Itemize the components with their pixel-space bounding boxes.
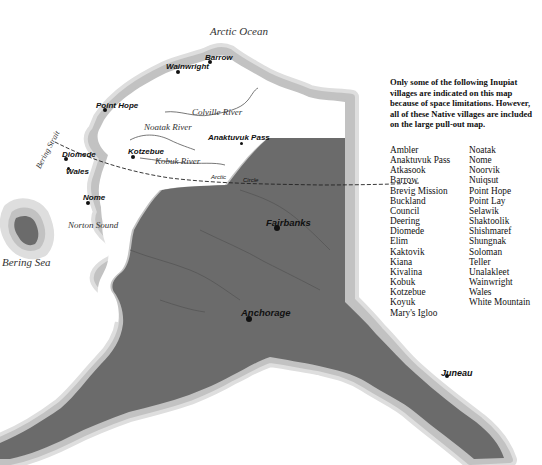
town-fairbanks: Fairbanks (266, 217, 311, 228)
arctic-circle-label-1: Arctic (211, 174, 226, 180)
village-item: Kiana (390, 257, 450, 267)
village-item: Unalakleet (469, 267, 530, 277)
village-item: Teller (469, 257, 530, 267)
arctic-circle-label-2: Circle (243, 177, 258, 183)
village-item: Mary's Igloo (390, 308, 450, 318)
town-anaktuvuk-pass: Anaktuvuk Pass (208, 133, 270, 142)
village-item: Noatak (469, 145, 530, 155)
town-nome-dot (86, 201, 90, 205)
village-item: Nome (469, 155, 530, 165)
village-item: Kivalina (390, 267, 450, 277)
village-item: Council (390, 206, 450, 216)
village-item: Shishmaref (469, 226, 530, 236)
alaska-map (0, 0, 542, 465)
town-point-hope-dot (103, 108, 107, 112)
village-item: Barrow (390, 175, 450, 185)
town-fairbanks-dot (274, 225, 280, 231)
village-item: Shungnak (469, 236, 530, 246)
colville-river-label: Colville River (192, 107, 242, 117)
norton-sound-label: Norton Sound (68, 220, 118, 230)
town-wainwright-dot (176, 70, 180, 74)
villages-column-1: Ambler Anaktuvuk Pass Atkasook Barrow Br… (390, 145, 450, 318)
bering-sea-label: Bering Sea (2, 256, 51, 268)
village-item: Diomede (390, 226, 450, 236)
town-juneau-dot (445, 374, 449, 378)
village-item: Nuiqsut (469, 175, 530, 185)
village-item: Noorvik (469, 165, 530, 175)
noatak-river-label: Noatak River (144, 122, 192, 132)
town-wainwright: Wainwright (166, 62, 209, 71)
village-item: Anaktuvuk Pass (390, 155, 450, 165)
village-item: Elim (390, 236, 450, 246)
village-item: Kobuk (390, 277, 450, 287)
town-wales-dot (67, 167, 70, 170)
village-item: Kaktovik (390, 247, 450, 257)
village-item: Kotzebue (390, 287, 450, 297)
town-diomede-dot (64, 157, 68, 161)
town-anaktuvuk-pass-dot (240, 142, 243, 145)
village-item: Shaktoolik (469, 216, 530, 226)
village-item: Soloman (469, 247, 530, 257)
village-item: Wales (469, 287, 530, 297)
village-item: Point Hope (469, 186, 530, 196)
kobuk-river-label: Kobuk River (155, 156, 200, 166)
village-item: Ambler (390, 145, 450, 155)
village-item: White Mountain (469, 297, 530, 307)
villages-column-2: Noatak Nome Noorvik Nuiqsut Point Hope P… (469, 145, 530, 308)
village-item: Deering (390, 216, 450, 226)
village-item: Brevig Mission (390, 186, 450, 196)
village-item: Point Lay (469, 196, 530, 206)
village-item: Wainwright (469, 277, 530, 287)
town-kotzebue-dot (131, 155, 135, 159)
town-anchorage-dot (246, 316, 252, 322)
village-item: Selawik (469, 206, 530, 216)
arctic-ocean-label: Arctic Ocean (210, 25, 268, 37)
village-item: Buckland (390, 196, 450, 206)
villages-note: Only some of the following Inupiat villa… (390, 77, 540, 130)
village-item: Atkasook (390, 165, 450, 175)
village-item: Koyuk (390, 297, 450, 307)
